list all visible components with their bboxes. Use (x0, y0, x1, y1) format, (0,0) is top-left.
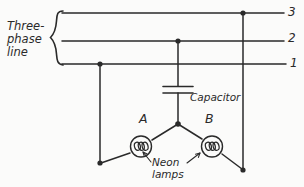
conductor-group (62, 13, 286, 64)
neon-lamps-label-row-2: lamps (152, 169, 184, 181)
three-phase-line-label-row-3: line (7, 46, 44, 59)
terminal-right-dot (240, 167, 245, 172)
wye-branch-a-upper (152, 124, 178, 140)
node-a-label: A (139, 112, 148, 126)
three-phase-line-label-row-1: Three- (7, 20, 44, 33)
diagram-canvas: Three- phase line 3 2 1 Capacitor A B Ne… (0, 0, 304, 187)
neon-lamp-b-icon (202, 136, 223, 157)
terminal-left-dot (97, 160, 102, 165)
neon-lamp-a-icon (131, 136, 152, 157)
three-phase-line-label: Three- phase line (7, 20, 44, 59)
wye-branch-a-lower (101, 153, 130, 163)
capacitor-icon (163, 87, 193, 94)
neon-lamps-label: Neon lamps (152, 157, 184, 181)
neon-lamps-label-row-1: Neon (152, 157, 184, 169)
wye-branch-b-upper (178, 124, 202, 139)
junction-line-1-dot (97, 61, 102, 66)
wye-node-dot (175, 121, 181, 127)
junction-line-2-dot (175, 38, 180, 43)
conductor-label-1: 1 (290, 57, 298, 70)
junction-line-3-dot (240, 10, 245, 15)
leader-line-right (187, 153, 200, 163)
brace-icon (51, 11, 64, 65)
node-b-label: B (205, 112, 214, 126)
wye-branch-b-lower (222, 154, 242, 169)
conductor-label-3: 3 (288, 6, 296, 19)
conductor-label-2: 2 (288, 32, 296, 45)
three-phase-line-label-row-2: phase (7, 33, 44, 46)
capacitor-label: Capacitor (190, 92, 240, 104)
